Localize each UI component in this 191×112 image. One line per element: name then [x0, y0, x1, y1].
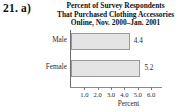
x-tick-6.0: [151, 87, 152, 90]
plot-area: Male 4.4 Female 5.2 1.02.03.04.05.06.0 P…: [40, 30, 191, 88]
bar-female: [71, 60, 140, 77]
x-axis-title: Percent: [70, 100, 187, 109]
x-tick-label-6.0: 6.0: [141, 91, 161, 99]
bar-male: [71, 33, 130, 50]
x-tick-1.0: [84, 87, 85, 90]
bar-row-female: Female 5.2: [40, 60, 191, 78]
category-label-male: Male: [40, 36, 67, 45]
bar-row-male: Male 4.4: [40, 33, 191, 51]
category-label-female: Female: [40, 63, 67, 72]
problem-number-label: 21. a): [3, 2, 31, 14]
x-tick-5.0: [138, 87, 139, 90]
bar-value-male: 4.4: [134, 37, 143, 46]
x-tick-2.0: [98, 87, 99, 90]
x-tick-3.0: [111, 87, 112, 90]
chart-figure: 21. a) Percent of Survey Respondents Tha…: [0, 0, 191, 112]
chart-title: Percent of Survey Respondents That Purch…: [40, 2, 191, 28]
x-tick-4.0: [124, 87, 125, 90]
chart-title-line-3: Online, Nov. 2000–Jan. 2001: [40, 19, 191, 28]
bar-value-female: 5.2: [144, 64, 153, 73]
bar-chart: Percent of Survey Respondents That Purch…: [40, 0, 191, 112]
